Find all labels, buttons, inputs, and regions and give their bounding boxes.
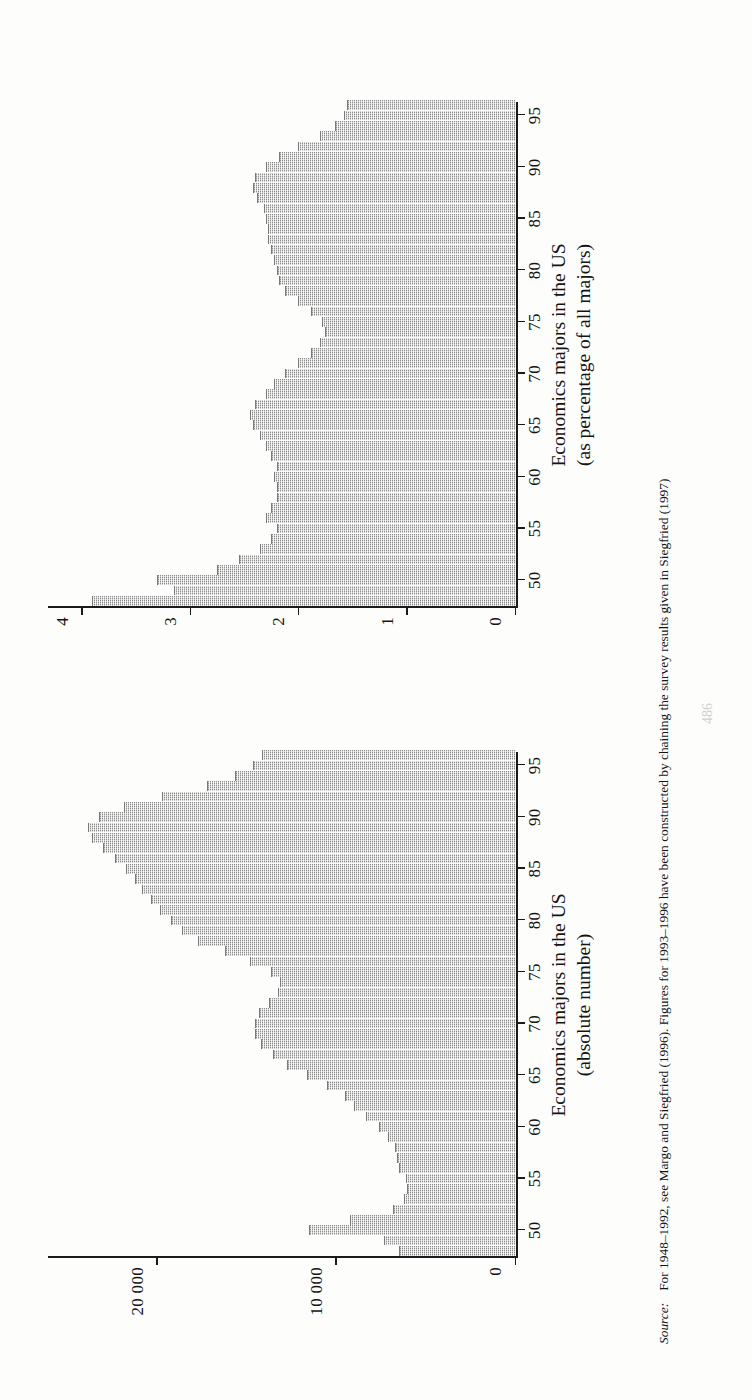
bar	[266, 441, 516, 451]
caption-line-1: Economics majors in the US	[546, 752, 571, 1258]
bar	[399, 1163, 517, 1173]
bar	[266, 162, 516, 172]
y-tick	[406, 608, 407, 615]
bar	[344, 111, 516, 121]
bar	[271, 451, 516, 461]
bar	[225, 947, 516, 957]
bar	[250, 957, 516, 967]
bar	[285, 369, 516, 379]
bar	[250, 410, 517, 420]
bar	[277, 266, 516, 276]
bar	[268, 224, 516, 234]
y-tick-label: 10 000	[306, 1267, 326, 1316]
x-tick-label: 60	[525, 468, 545, 486]
bar	[260, 431, 516, 441]
x-tick-label: 85	[525, 210, 545, 228]
bar	[298, 142, 516, 152]
x-tick-label: 60	[525, 1118, 545, 1136]
bar	[407, 1184, 516, 1194]
bar	[135, 874, 516, 884]
bar	[393, 1205, 516, 1215]
bar	[327, 1081, 516, 1091]
x-tick	[518, 579, 525, 580]
x-tick-label: 80	[525, 262, 545, 280]
bar	[345, 1091, 516, 1101]
bar	[255, 1019, 516, 1029]
bar	[287, 1060, 516, 1070]
y-axis-line-percentage	[48, 606, 518, 608]
bar	[271, 967, 516, 977]
bar	[354, 1101, 516, 1111]
x-tick-label: 75	[525, 313, 545, 331]
x-tick-label: 90	[525, 158, 545, 176]
bar	[307, 1070, 516, 1080]
x-tick-label: 70	[525, 1015, 545, 1033]
bar	[99, 812, 516, 822]
plot-area-percentage: 01234 50556065707580859095	[48, 102, 518, 608]
bar	[384, 1236, 516, 1246]
chart-economics-majors-absolute: 010 00020 000 50556065707580859095 Econo…	[40, 744, 600, 1344]
source-note: Source:For 1948–1992, see Margo and Sieg…	[656, 86, 673, 1344]
y-tick	[156, 1258, 157, 1265]
x-tick	[518, 971, 525, 972]
x-tick	[518, 764, 525, 765]
y-tick-label: 0	[486, 617, 506, 626]
bar	[309, 1225, 516, 1235]
y-tick	[81, 608, 82, 615]
source-label: Source:	[656, 1303, 671, 1344]
y-tick	[515, 608, 516, 615]
source-text: For 1948–1992, see Margo and Siegfried (…	[656, 479, 671, 1291]
bar	[320, 131, 516, 141]
x-tick	[518, 424, 525, 425]
book-page: 010 00020 000 50556065707580859095 Econo…	[0, 0, 752, 1400]
x-tick-label: 90	[525, 808, 545, 826]
x-tick	[518, 867, 525, 868]
x-tick	[518, 1229, 525, 1230]
bar	[274, 472, 516, 482]
bar	[273, 1050, 516, 1060]
bar	[279, 276, 516, 286]
bar	[320, 338, 516, 348]
bar	[259, 1008, 516, 1018]
x-tick-label: 50	[525, 1221, 545, 1239]
bar	[322, 317, 516, 327]
x-tick-label: 95	[525, 107, 545, 125]
y-tick-label: 4	[52, 617, 72, 626]
bar	[268, 235, 516, 245]
bar	[311, 348, 516, 358]
y-tick-label: 1	[377, 617, 397, 626]
y-tick	[190, 608, 191, 615]
x-tick	[518, 1177, 525, 1178]
x-tick-label: 85	[525, 860, 545, 878]
caption-line-2: (absolute number)	[571, 752, 596, 1258]
chart-economics-majors-percentage: 01234 50556065707580859095 Economics maj…	[40, 94, 600, 694]
bar-series-percentage	[50, 100, 516, 606]
bar	[257, 193, 516, 203]
bar	[279, 152, 516, 162]
x-tick-label: 70	[525, 365, 545, 383]
plot-area-absolute: 010 00020 000 50556065707580859095	[48, 752, 518, 1258]
bar	[325, 327, 516, 337]
bar	[103, 843, 516, 853]
bar	[253, 420, 516, 430]
x-tick	[518, 1126, 525, 1127]
y-tick	[515, 1258, 516, 1265]
bar	[271, 534, 516, 544]
bar	[277, 524, 516, 534]
bar	[388, 1132, 516, 1142]
bar	[217, 565, 516, 575]
bar	[253, 183, 516, 193]
bar	[271, 245, 516, 255]
bar	[277, 493, 516, 503]
x-tick	[518, 527, 525, 528]
x-tick	[518, 321, 525, 322]
caption-absolute: Economics majors in the US (absolute num…	[546, 752, 597, 1258]
bar	[160, 905, 516, 915]
bar	[335, 121, 516, 131]
bar	[269, 998, 516, 1008]
caption-line-1: Economics majors in the US	[546, 102, 571, 608]
bar	[239, 555, 516, 565]
x-tick	[518, 1074, 525, 1075]
bar	[255, 1029, 516, 1039]
bar-series-absolute	[50, 750, 516, 1256]
